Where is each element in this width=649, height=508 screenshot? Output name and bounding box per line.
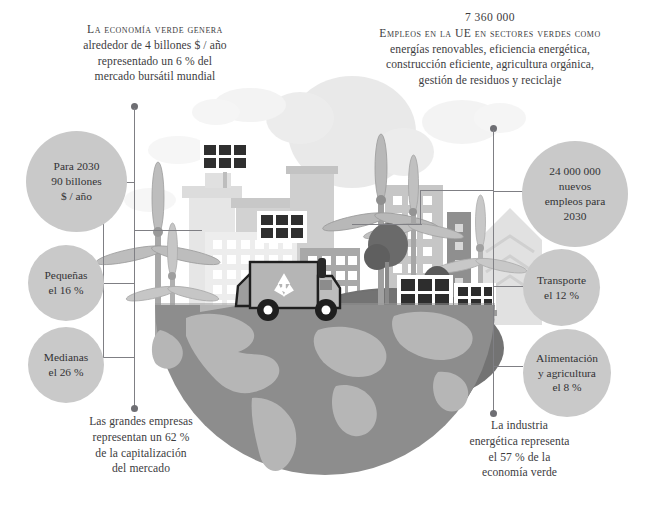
callout-nuevos-empleos-line-3: empleos para xyxy=(545,194,605,209)
solar-farm-panels xyxy=(396,276,497,316)
trees-group xyxy=(364,223,451,324)
bottom-right-line-1: La industria xyxy=(412,418,627,434)
connector-line-right-spine xyxy=(493,130,494,415)
top-right-number: 7 360 000 xyxy=(340,10,640,26)
callout-para-2030-line-2: 90 billones xyxy=(51,174,101,189)
callout-medianas-line-1: Medianas xyxy=(44,350,88,365)
connector-top-right-rail xyxy=(420,190,494,191)
callout-pequenas[interactable]: Pequeñas el 16 % xyxy=(28,245,104,321)
connector-dot-bottom-left xyxy=(131,405,138,412)
callout-nuevos-empleos[interactable]: 24 000 000 nuevos empleos para 2030 xyxy=(522,141,628,247)
callout-alimentacion-line-1: Alimentación xyxy=(536,351,598,366)
connector-top-right-rail2 xyxy=(352,224,422,225)
top-left-line-1: alrededor de 4 billones $ / año xyxy=(20,38,290,54)
callout-pequenas-line-2: el 16 % xyxy=(44,283,87,298)
bottom-right-line-2: energética representa xyxy=(412,434,627,450)
top-right-line-2: construcción eficiente, agricultura orgá… xyxy=(340,57,640,73)
top-right-line-1: energías renovables, eficiencia energéti… xyxy=(340,42,640,58)
connector-branch-medianas xyxy=(103,357,135,358)
connector-branch-alimentacion xyxy=(493,366,523,367)
callout-nuevos-empleos-line-2: nuevos xyxy=(545,179,605,194)
connector-branch-pequenas xyxy=(103,283,135,284)
rooftop-solar-panels xyxy=(201,142,306,242)
recycling-truck xyxy=(236,258,340,321)
callout-alimentacion-line-2: y agricultura xyxy=(536,366,598,381)
callout-alimentacion-line-3: el 8 % xyxy=(536,380,598,395)
callout-nuevos-empleos-line-1: 24 000 000 xyxy=(545,164,605,179)
wind-turbines-right xyxy=(321,134,527,334)
connector-top-left-rail xyxy=(134,230,202,231)
callout-transporte[interactable]: Transporte el 12 % xyxy=(523,249,600,326)
top-left-line-2: representado un 6 % del xyxy=(20,54,290,70)
callout-transporte-line-2: el 12 % xyxy=(537,288,586,303)
top-right-line-3: gestión de residuos y reciclaje xyxy=(340,73,640,89)
connector-branch-transporte xyxy=(493,286,523,287)
connector-line-left-spine xyxy=(134,108,135,408)
top-left-headline: La economía verde genera xyxy=(20,22,290,38)
callout-medianas[interactable]: Medianas el 26 % xyxy=(28,327,104,403)
callout-pequenas-line-1: Pequeñas xyxy=(44,268,87,283)
connector-top-right-drop xyxy=(420,190,421,224)
connector-dot-bottom-right xyxy=(490,410,497,417)
callout-medianas-line-2: el 26 % xyxy=(44,365,88,380)
callout-para-2030[interactable]: Para 2030 90 billones $ / año xyxy=(26,131,127,232)
callout-para-2030-line-1: Para 2030 xyxy=(51,159,101,174)
bottom-left-line-2: representan un 62 % xyxy=(26,430,256,446)
top-right-headline: Empleos en la UE en sectores verdes como xyxy=(340,26,640,42)
green-hills-group xyxy=(190,288,512,424)
bottom-left-line-3: de la capitalización xyxy=(26,446,256,462)
text-block-bottom-left: Las grandes empresas representan un 62 %… xyxy=(26,414,256,477)
callout-para-2030-line-3: $ / año xyxy=(51,189,101,204)
callout-nuevos-empleos-line-4: 2030 xyxy=(545,209,605,224)
callout-alimentacion[interactable]: Alimentación y agricultura el 8 % xyxy=(523,329,611,417)
text-block-bottom-right: La industria energética representa el 57… xyxy=(412,418,627,481)
infographic-root: La economía verde genera alrededor de 4 … xyxy=(0,0,649,508)
bottom-left-line-1: Las grandes empresas xyxy=(26,414,256,430)
top-left-line-3: mercado bursátil mundial xyxy=(20,69,290,85)
callout-transporte-line-1: Transporte xyxy=(537,273,586,288)
text-block-top-left: La economía verde genera alrededor de 4 … xyxy=(20,22,290,85)
connector-branch-nuevos-empleos xyxy=(493,191,523,192)
bottom-left-line-4: del mercado xyxy=(26,461,256,477)
text-block-top-right: 7 360 000 Empleos en la UE en sectores v… xyxy=(340,10,640,89)
bottom-right-line-4: economía verde xyxy=(412,465,627,481)
bottom-right-line-3: el 57 % de la xyxy=(412,450,627,466)
